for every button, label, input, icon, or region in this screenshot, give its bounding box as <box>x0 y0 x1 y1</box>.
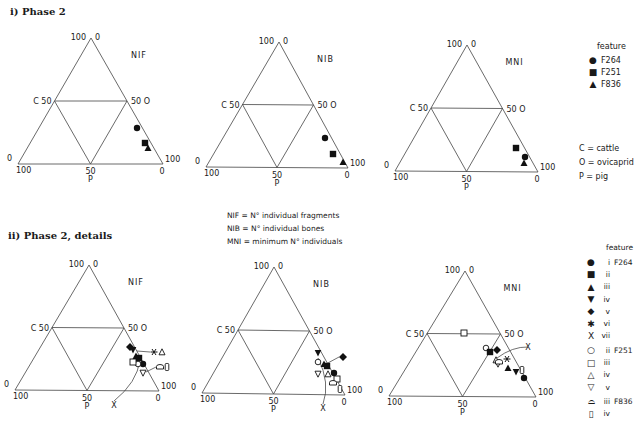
open-tall-rect-marker <box>338 386 342 393</box>
x-marker: X <box>111 401 117 410</box>
ovicaprid-50-label: 50 O <box>128 324 147 333</box>
legend-item: □iii <box>584 356 633 368</box>
gridline <box>243 105 314 106</box>
legend-item: ◆v <box>584 305 633 317</box>
gridline <box>55 101 91 164</box>
gridline <box>427 334 463 397</box>
legend-item: ▲iii <box>584 281 633 293</box>
filled-triangle-icon: ▲ <box>584 282 598 292</box>
corner-label: 0 <box>384 161 389 170</box>
legend-item: ⌓iiiF836 <box>584 395 633 407</box>
apex-label-left: 100 <box>254 262 269 271</box>
apex-label-right: 0 <box>469 266 474 275</box>
corner-label: 100 <box>540 163 555 172</box>
corner-label: 100 <box>204 169 219 178</box>
ternary-chart-nib-details: 1000C 5050 O0100100050PNIBX <box>191 262 362 414</box>
chart-title: MNI <box>503 284 521 293</box>
filled-inverted-triangle-marker <box>315 350 322 357</box>
corner-label: 100 <box>393 173 408 182</box>
filled-diamond-marker <box>339 353 347 361</box>
legend-item: ▲F836 <box>585 78 626 90</box>
legend-title: feature <box>597 42 626 54</box>
filled-circle-icon: ● <box>585 55 601 65</box>
legend-item: Xvii <box>584 330 633 342</box>
corner-label: 0 <box>534 175 539 184</box>
filled-circle-marker <box>331 370 337 376</box>
open-triangle-icon: △ <box>584 370 598 380</box>
cattle-50-label: C 50 <box>221 101 239 110</box>
filled-triangle-marker <box>340 159 347 166</box>
leader-line <box>137 351 150 352</box>
open-dome-marker <box>157 365 164 370</box>
filled-circle-marker <box>134 125 140 131</box>
asterisk-marker <box>151 349 158 355</box>
corner-label: 100 <box>16 166 31 175</box>
open-inverted-triangle-marker <box>315 371 321 377</box>
apex-label-left: 100 <box>259 37 274 46</box>
leader-line <box>497 347 528 358</box>
open-dome-marker <box>496 360 503 365</box>
legend-item: ■F251 <box>585 66 626 78</box>
corner-label: 100 <box>538 388 553 397</box>
open-dome-icon: ⌓ <box>584 396 598 407</box>
ovicaprid-50-label: 50 O <box>314 327 333 336</box>
open-triangle-marker <box>159 349 165 355</box>
corner-label: 0 <box>155 394 160 403</box>
cattle-50-label: C 50 <box>406 330 424 339</box>
pig-axis-label: P <box>464 183 469 192</box>
corner-label: 0 <box>344 171 349 180</box>
filled-triangle-marker <box>521 160 528 167</box>
ovicaprid-50-label: 50 O <box>131 97 150 106</box>
legend-item: ■ii <box>584 268 633 280</box>
apex-label-left: 100 <box>71 33 86 42</box>
filled-square-icon: ■ <box>585 67 601 77</box>
legend-item: ▽v <box>584 381 633 393</box>
legend-item: ●iF264 <box>584 256 633 268</box>
ovicaprid-50-label: 50 O <box>505 330 524 339</box>
asterisk-icon: ✱ <box>584 319 598 329</box>
gridline <box>431 108 503 109</box>
gridline <box>463 334 501 397</box>
legend-item: ✱vi <box>584 317 633 329</box>
corner-label: 100 <box>200 395 215 404</box>
ternary-chart-mni-details: 1000C 5050 O0100100050PMNIX <box>378 266 553 417</box>
cattle-50-label: C 50 <box>217 326 235 335</box>
legend-details: feature ●iF264■ii▲iii▼iv◆v✱viXvii○iiF251… <box>584 243 633 420</box>
x-marker: X <box>320 404 326 413</box>
species-abbreviations: C = cattle O = ovicaprid P = pig <box>579 142 634 184</box>
legend-item: ●F264 <box>585 54 626 66</box>
abbr-cattle: C = cattle <box>579 142 634 156</box>
corner-label: 0 <box>191 383 196 392</box>
asterisk-marker <box>504 356 511 362</box>
filled-square-marker <box>513 145 519 151</box>
gridline <box>238 330 310 331</box>
legend-item: ○iiF251 <box>584 344 633 356</box>
legend-item: △iv <box>584 369 633 381</box>
abbreviation-definitions: NIF = N° individual fragments NIB = N° i… <box>227 209 342 248</box>
apex-label-left: 100 <box>447 40 462 49</box>
chart-title: NIB <box>313 280 330 289</box>
corner-label: 100 <box>161 382 176 391</box>
x-marker: X <box>525 343 531 352</box>
open-inverted-triangle-icon: ▽ <box>584 382 598 392</box>
ternary-chart-nib: 1000C 5050 O0100100050PNIB <box>195 37 365 188</box>
filled-circle-marker <box>522 154 528 160</box>
open-circle-icon: ○ <box>584 345 598 355</box>
ovicaprid-50-label: 50 O <box>318 101 337 110</box>
filled-inverted-triangle-marker <box>513 369 520 376</box>
filled-circle-icon: ● <box>584 257 598 267</box>
ternary-chart-mni: 1000C 5050 O0100100050PMNI <box>384 40 555 192</box>
filled-inverted-triangle-icon: ▼ <box>584 294 598 304</box>
open-circle-marker <box>315 359 321 365</box>
definition-mni: MNI = minimum N° individuals <box>227 235 342 248</box>
filled-triangle-icon: ▲ <box>585 79 601 89</box>
abbr-ovicaprid: O = ovicaprid <box>579 156 634 170</box>
filled-circle-marker <box>322 135 328 141</box>
filled-diamond-icon: ◆ <box>584 306 598 316</box>
gridline <box>277 105 314 168</box>
definition-nib: NIB = N° individual bones <box>227 222 342 235</box>
corner-label: 100 <box>347 386 362 395</box>
open-square-marker <box>130 359 136 365</box>
filled-square-icon: ■ <box>584 269 598 279</box>
pig-axis-label: P <box>85 402 90 411</box>
